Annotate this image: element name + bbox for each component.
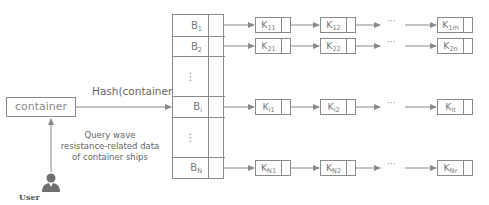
hash-function-label: Hash(container) (92, 85, 176, 97)
chain-node-last: Kit (437, 99, 473, 115)
chain-node-last: KNr (437, 160, 473, 176)
bucket-key: B2 (173, 37, 209, 56)
bucket-key: Bi (173, 97, 209, 117)
bucket-key: BN (173, 158, 209, 178)
chain-node: Ki1 (255, 99, 291, 115)
ellipsis-marker: ⋮ (173, 57, 209, 96)
bucket-row-b2: B2 (173, 37, 225, 57)
bucket-row-ellipsis: ⋮ (173, 118, 225, 158)
user-label: User (19, 192, 40, 202)
chain-ellipsis: ··· (387, 16, 396, 26)
chain-node: K22 (320, 38, 356, 54)
bucket-row-bi: Bi (173, 97, 225, 118)
chain-node: K12 (320, 17, 356, 33)
bucket-pointer (209, 97, 225, 117)
chain-node: K21 (255, 38, 291, 54)
ellipsis-marker: ⋮ (173, 118, 209, 157)
query-description: Query wave resistance-related data of co… (60, 130, 160, 163)
container-label: container (15, 100, 67, 113)
user-icon (41, 172, 61, 192)
hash-bucket-table: B1 B2 ⋮ Bi ⋮ BN (172, 14, 224, 179)
chain-node-last: K2n (437, 38, 473, 54)
chain-node-last: K1m (437, 17, 473, 33)
bucket-key: B1 (173, 15, 209, 36)
container-node: container (6, 97, 76, 117)
bucket-row-b1: B1 (173, 15, 225, 37)
bucket-pointer (209, 118, 225, 157)
chain-node: K11 (255, 17, 291, 33)
bucket-row-bn: BN (173, 158, 225, 178)
chain-node: Ki2 (320, 99, 356, 115)
chain-ellipsis: ··· (387, 159, 396, 169)
bucket-pointer (209, 57, 225, 96)
bucket-pointer (209, 15, 225, 36)
bucket-pointer (209, 37, 225, 56)
chain-node: KN2 (320, 160, 356, 176)
bucket-row-ellipsis: ⋮ (173, 57, 225, 97)
bucket-pointer (209, 158, 225, 178)
chain-ellipsis: ··· (387, 37, 396, 47)
chain-node: KN1 (255, 160, 291, 176)
chain-ellipsis: ··· (387, 98, 396, 108)
